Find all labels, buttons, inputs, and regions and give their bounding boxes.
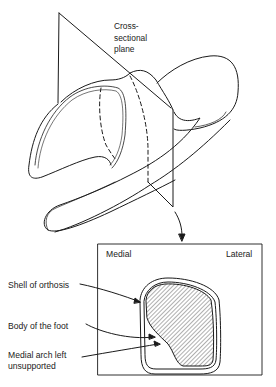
callout-body-arrowhead: [149, 334, 155, 339]
section-line-rear: [100, 88, 116, 160]
orthosis-sole-line: [55, 120, 230, 232]
callout-arch-arrowhead: [154, 341, 160, 346]
callout-shell: [80, 284, 140, 302]
shell-of-orthosis-label: Shell of orthosis: [8, 280, 69, 291]
callout-arch: [82, 344, 158, 357]
lateral-label: Lateral: [226, 249, 252, 260]
section-line-front: [130, 76, 148, 182]
medial-label: Medial: [106, 249, 131, 260]
body-of-foot-label: Body of the foot: [8, 321, 68, 332]
view-arrow: [175, 212, 182, 236]
foot-body-section: [146, 284, 214, 366]
orthosis-shell-rim-inner2: [38, 90, 123, 168]
orthosis-shell-outer: [29, 104, 111, 178]
medial-arch-label: Medial arch left unsupported: [8, 350, 66, 371]
orthosis-shell-rim: [61, 70, 173, 110]
view-arrowhead: [179, 234, 185, 241]
cross-sectional-plane-label: Cross- sectional plane: [114, 21, 147, 56]
callout-body: [86, 324, 153, 338]
callout-shell-arrowhead: [134, 298, 140, 303]
